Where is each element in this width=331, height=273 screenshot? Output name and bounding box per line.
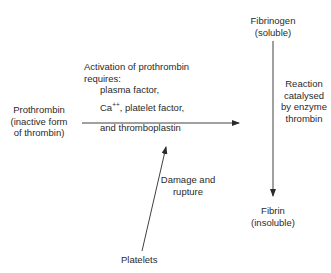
prothrombin-desc-2: of thrombin) [5, 127, 73, 139]
prothrombin-label: Prothrombin [5, 104, 73, 116]
fibrin-node: Fibrin (insoluble) [247, 205, 299, 228]
activation-requires: requires: [84, 73, 189, 85]
fibrinogen-node: Fibrinogen (soluble) [250, 15, 296, 38]
fibrin-state: (insoluble) [247, 217, 299, 229]
damage-arrow [142, 147, 166, 251]
requirement-calcium-platelet: Ca++, platelet factor, [84, 102, 189, 122]
requirement-thromboplastin: and thromboplastin [84, 122, 189, 134]
prothrombin-node: Prothrombin (inactive form of thrombin) [5, 104, 73, 139]
fibrinogen-state: (soluble) [250, 27, 296, 39]
prothrombin-desc-1: (inactive form [5, 116, 73, 128]
requirement-plasma-factor: plasma factor, [84, 84, 189, 102]
activation-requirements: Activation of prothrombin requires: plas… [84, 61, 189, 134]
damage-label: Damage and rupture [160, 174, 216, 197]
activation-title: Activation of prothrombin [84, 61, 189, 73]
platelets-node: Platelets [121, 254, 157, 266]
fibrinogen-label: Fibrinogen [250, 15, 296, 27]
fibrin-label: Fibrin [247, 205, 299, 217]
reaction-label: Reaction catalysed by enzyme thrombin [279, 78, 329, 124]
